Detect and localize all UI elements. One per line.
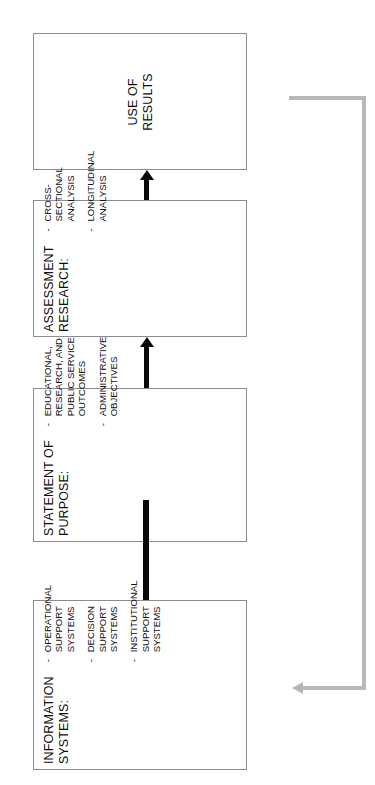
list-item: - LONGITUDINAL ANALYSIS	[85, 150, 108, 231]
diagram-canvas: USE OF RESULTS ASSESSMENT RESEARCH: - CR…	[0, 0, 375, 785]
list-item: - CROSS- SECTIONAL ANALYSIS	[42, 150, 76, 231]
bullet-dash-icon: -	[42, 221, 53, 231]
list-item: - EDUCATIONAL, RESEARCH, AND PUBLIC SERV…	[42, 337, 88, 427]
list-item: - INSTITUTIONAL SUPPORT SYSTEMS	[128, 580, 162, 662]
node-title: ASSESSMENT RESEARCH:	[42, 245, 71, 331]
node-title-line: INFORMATION	[42, 676, 57, 764]
bullet-dash-icon: -	[85, 652, 96, 662]
bullet-dash-icon: -	[97, 416, 108, 426]
bullet-text: ADMINISTRATIVE OBJECTIVES	[97, 337, 120, 417]
bullet-line: EDUCATIONAL,	[42, 346, 53, 416]
bullet-line: CROSS-	[42, 184, 53, 221]
bullet-line: DECISION	[85, 606, 96, 652]
node-information-systems[interactable]: INFORMATION SYSTEMS: - OPERATIONAL SUPPO…	[33, 600, 247, 770]
bullet-dash-icon: -	[42, 652, 53, 662]
node-title-line: ASSESSMENT	[42, 245, 57, 331]
bullet-line: ADMINISTRATIVE	[97, 337, 108, 417]
bullet-dash-icon: -	[85, 221, 96, 231]
feedback-arrow-head-icon	[292, 682, 303, 694]
bullet-dash-icon: -	[128, 652, 139, 662]
node-title-line: USE OF	[126, 73, 141, 130]
node-title-line: STATEMENT OF	[42, 440, 57, 536]
bullet-line: SYSTEMS	[108, 606, 119, 652]
feedback-segment-right	[362, 96, 366, 688]
bullet-text: OPERATIONAL SUPPORT SYSTEMS	[42, 585, 76, 653]
bullet-line: LONGITUDINAL	[85, 150, 96, 221]
list-item: - OPERATIONAL SUPPORT SYSTEMS	[42, 580, 76, 662]
bullet-line: ANALYSIS	[97, 175, 108, 221]
node-title: USE OF RESULTS	[126, 73, 155, 130]
bullet-line: PUBLIC SERVICE	[65, 337, 76, 416]
bullet-dash-icon: -	[42, 416, 53, 426]
bullet-text: LONGITUDINAL ANALYSIS	[85, 150, 108, 221]
node-title-line: PURPOSE:	[57, 440, 72, 536]
bullet-line: RESEARCH, AND	[53, 338, 64, 416]
list-item: - DECISION SUPPORT SYSTEMS	[85, 580, 119, 662]
bullet-line: INSTITUTIONAL	[128, 580, 139, 652]
node-title: STATEMENT OF PURPOSE:	[42, 440, 71, 536]
bullet-line: SYSTEMS	[151, 606, 162, 652]
list-item: - ADMINISTRATIVE OBJECTIVES	[97, 337, 120, 427]
node-assessment-research[interactable]: ASSESSMENT RESEARCH: - CROSS- SECTIONAL …	[33, 200, 247, 337]
bullet-line: OPERATIONAL	[42, 585, 53, 653]
bullet-line: ANALYSIS	[65, 175, 76, 221]
feedback-segment-top	[289, 96, 366, 100]
bullet-line: SUPPORT	[53, 606, 64, 652]
node-title-line: RESULTS	[140, 73, 155, 130]
bullet-line: OBJECTIVES	[108, 357, 119, 417]
node-bullet-list: - EDUCATIONAL, RESEARCH, AND PUBLIC SERV…	[42, 337, 119, 427]
node-bullet-list: - CROSS- SECTIONAL ANALYSIS - LONGITUDIN…	[42, 150, 108, 231]
node-use-of-results[interactable]: USE OF RESULTS	[33, 33, 247, 170]
bullet-line: SECTIONAL	[53, 167, 64, 221]
bullet-line: SYSTEMS	[65, 606, 76, 652]
node-title-line: SYSTEMS:	[57, 676, 72, 764]
bullet-line: SUPPORT	[97, 606, 108, 652]
node-title-line: RESEARCH:	[57, 245, 72, 331]
bullet-text: DECISION SUPPORT SYSTEMS	[85, 606, 119, 652]
bullet-text: CROSS- SECTIONAL ANALYSIS	[42, 167, 76, 221]
bullet-text: EDUCATIONAL, RESEARCH, AND PUBLIC SERVIC…	[42, 337, 88, 416]
bullet-text: INSTITUTIONAL SUPPORT SYSTEMS	[128, 580, 162, 652]
node-title: INFORMATION SYSTEMS:	[42, 676, 71, 764]
bullet-line: OUTCOMES	[76, 361, 87, 416]
node-bullet-list: - OPERATIONAL SUPPORT SYSTEMS - DECISION…	[42, 580, 163, 662]
node-statement-of-purpose[interactable]: STATEMENT OF PURPOSE: - EDUCATIONAL, RES…	[33, 388, 247, 542]
feedback-segment-bottom	[303, 686, 366, 690]
bullet-line: SUPPORT	[140, 606, 151, 652]
